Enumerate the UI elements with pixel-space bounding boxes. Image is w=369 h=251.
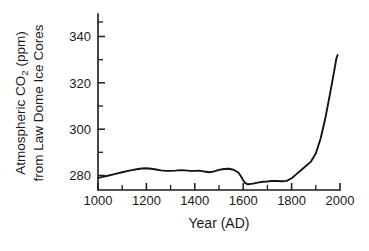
- y-axis-label: Atmospheric CO2 (ppm) from Law Dome Ice …: [13, 24, 46, 181]
- axis-spines: [98, 14, 340, 190]
- y-axis-label-line1-text: Atmospheric CO: [13, 76, 28, 175]
- figure-container: Atmospheric CO2 (ppm) from Law Dome Ice …: [0, 0, 369, 251]
- svg-text:Atmospheric CO2 (ppm): Atmospheric CO2 (ppm): [13, 31, 30, 174]
- y-tick-label-300: 300: [69, 122, 91, 137]
- y-tick-label-320: 320: [69, 76, 91, 91]
- x-tick-label-1200: 1200: [132, 193, 161, 208]
- x-tick-label-1800: 1800: [277, 193, 306, 208]
- y-axis-label-line1-units: (ppm): [13, 31, 28, 70]
- x-tick-label-2000: 2000: [326, 193, 355, 208]
- y-tick-labels: 280 300 320 340: [69, 29, 91, 183]
- co2-series-line: [98, 55, 338, 184]
- x-tick-label-1000: 1000: [84, 193, 113, 208]
- x-axis-title: Year (AD): [189, 215, 250, 231]
- y-tick-label-340: 340: [69, 29, 91, 44]
- x-tick-labels: 1000 1200 1400 1600 1800 2000: [84, 193, 355, 208]
- y-tick-label-280: 280: [69, 168, 91, 183]
- x-tick-label-1600: 1600: [229, 193, 258, 208]
- y-axis-label-line2: from Law Dome Ice Cores: [31, 24, 46, 181]
- x-tick-label-1400: 1400: [180, 193, 209, 208]
- co2-line-chart: Atmospheric CO2 (ppm) from Law Dome Ice …: [0, 0, 369, 251]
